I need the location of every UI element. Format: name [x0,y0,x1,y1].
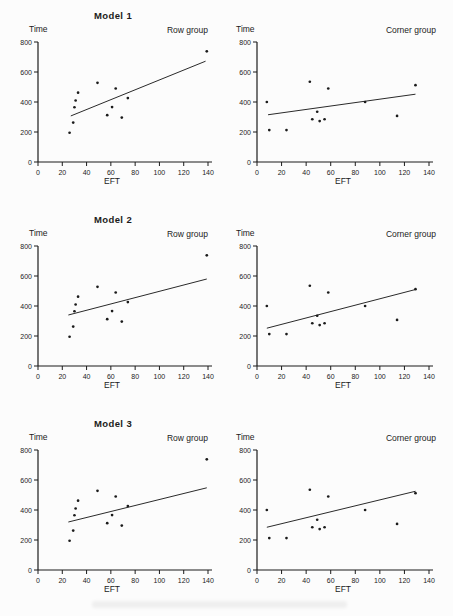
svg-text:400: 400 [20,99,32,106]
x-axis-label: EFT [32,584,192,594]
svg-text:800: 800 [239,447,251,454]
svg-text:800: 800 [20,39,32,46]
svg-text:0: 0 [36,373,40,380]
y-axis-label: Time [236,432,255,442]
svg-text:600: 600 [20,69,32,76]
svg-text:0: 0 [255,373,259,380]
svg-text:120: 120 [178,169,190,176]
svg-text:100: 100 [154,169,166,176]
svg-text:140: 140 [202,373,214,380]
svg-text:60: 60 [327,169,335,176]
plot-canvas-model3-row: 0200400600800020406080100120140 [0,414,226,612]
svg-text:800: 800 [239,243,251,250]
svg-text:140: 140 [202,169,214,176]
svg-text:0: 0 [247,567,251,574]
svg-text:120: 120 [399,577,411,584]
svg-text:800: 800 [20,243,32,250]
svg-text:200: 200 [20,333,32,340]
plot-canvas-model2-row: 0200400600800020406080100120140 [0,210,226,408]
svg-text:400: 400 [239,99,251,106]
svg-text:0: 0 [28,567,32,574]
svg-text:600: 600 [239,69,251,76]
plot-model1-row-group: 0200400600800020406080100120140 Model 1 … [0,6,226,204]
figure-page: 0200400600800020406080100120140 Model 1 … [0,0,453,616]
svg-text:120: 120 [178,577,190,584]
plot-canvas-model1-corner: 0200400600800020406080100120140 [226,6,452,204]
x-axis-label: EFT [32,176,192,186]
svg-text:60: 60 [107,373,115,380]
svg-text:40: 40 [83,169,91,176]
svg-text:0: 0 [36,577,40,584]
svg-text:400: 400 [20,303,32,310]
svg-text:40: 40 [302,373,310,380]
y-axis-label: Time [236,24,255,34]
svg-text:200: 200 [239,129,251,136]
svg-text:80: 80 [351,373,359,380]
svg-text:20: 20 [278,169,286,176]
group-label: Row group [167,25,208,35]
svg-text:80: 80 [351,577,359,584]
plot-model2-corner-group: 0200400600800020406080100120140 Time Cor… [226,210,453,408]
svg-text:400: 400 [239,507,251,514]
group-label: Corner group [386,433,436,443]
svg-text:600: 600 [239,273,251,280]
svg-text:40: 40 [302,169,310,176]
svg-text:140: 140 [423,373,435,380]
plots-grid: 0200400600800020406080100120140 Model 1 … [0,6,453,612]
x-axis-label: EFT [263,176,423,186]
svg-text:400: 400 [20,507,32,514]
svg-text:800: 800 [239,39,251,46]
plot-model3-corner-group: 0200400600800020406080100120140 Time Cor… [226,414,453,612]
y-axis-label: Time [236,228,255,238]
svg-text:800: 800 [20,447,32,454]
svg-text:600: 600 [20,477,32,484]
svg-text:20: 20 [58,169,66,176]
svg-text:140: 140 [423,169,435,176]
svg-text:120: 120 [399,169,411,176]
svg-text:200: 200 [239,333,251,340]
svg-text:100: 100 [154,577,166,584]
svg-text:400: 400 [239,303,251,310]
plot-model1-corner-group: 0200400600800020406080100120140 Time Cor… [226,6,453,204]
x-axis-label: EFT [32,380,192,390]
plot-model3-row-group: 0200400600800020406080100120140 Model 3 … [0,414,226,612]
plot-title: Model 1 [0,10,226,21]
svg-text:0: 0 [36,169,40,176]
svg-text:80: 80 [131,169,139,176]
plot-model2-row-group: 0200400600800020406080100120140 Model 2 … [0,210,226,408]
group-label: Row group [167,229,208,239]
svg-text:0: 0 [28,363,32,370]
svg-text:20: 20 [58,577,66,584]
plot-canvas-model1-row: 0200400600800020406080100120140 [0,6,226,204]
svg-text:600: 600 [239,477,251,484]
group-label: Row group [167,433,208,443]
svg-text:200: 200 [239,537,251,544]
x-axis-label: EFT [263,380,423,390]
svg-text:100: 100 [374,577,386,584]
svg-text:120: 120 [399,373,411,380]
svg-text:600: 600 [20,273,32,280]
svg-text:120: 120 [178,373,190,380]
group-label: Corner group [386,229,436,239]
svg-text:0: 0 [247,363,251,370]
x-axis-label: EFT [263,584,423,594]
plot-title: Model 2 [0,214,226,225]
plot-canvas-model2-corner: 0200400600800020406080100120140 [226,210,452,408]
svg-text:80: 80 [131,373,139,380]
svg-text:100: 100 [154,373,166,380]
svg-text:200: 200 [20,129,32,136]
svg-text:20: 20 [278,373,286,380]
plot-canvas-model3-corner: 0200400600800020406080100120140 [226,414,452,612]
svg-text:0: 0 [255,577,259,584]
svg-text:80: 80 [131,577,139,584]
svg-text:40: 40 [83,577,91,584]
svg-text:60: 60 [107,577,115,584]
svg-text:40: 40 [302,577,310,584]
svg-text:40: 40 [83,373,91,380]
svg-text:0: 0 [28,159,32,166]
svg-text:100: 100 [374,169,386,176]
svg-text:20: 20 [58,373,66,380]
svg-text:140: 140 [202,577,214,584]
svg-text:0: 0 [255,169,259,176]
y-axis-label: Time [29,24,48,34]
